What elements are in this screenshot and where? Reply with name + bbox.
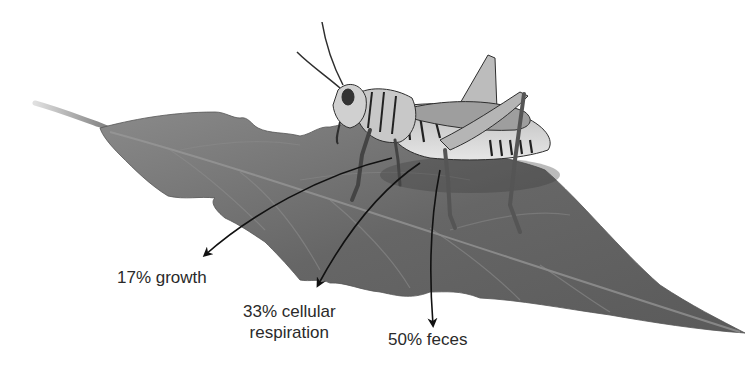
growth-text: 17% growth xyxy=(117,268,207,287)
label-growth: 17% growth xyxy=(117,267,207,288)
grasshopper-leaf-illustration xyxy=(0,0,753,377)
feces-text: 50% feces xyxy=(388,330,467,349)
label-cellular-respiration: 33% cellular respiration xyxy=(243,301,336,343)
label-feces: 50% feces xyxy=(388,329,467,350)
respiration-line-1: 33% cellular xyxy=(243,301,336,322)
respiration-line-2: respiration xyxy=(243,322,336,343)
